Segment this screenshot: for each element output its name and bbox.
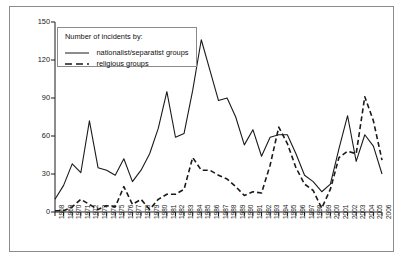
x-tick-label: 1994 (282, 205, 289, 219)
x-tick-label: 1968 (58, 205, 65, 219)
y-tick-label: 90 (20, 94, 50, 102)
x-tick-label: 1991 (256, 205, 263, 219)
x-tick-label: 1990 (247, 205, 254, 219)
y-tick-label: 60 (20, 132, 50, 140)
y-tick-label: 120 (20, 56, 50, 64)
y-axis-ticks (51, 22, 55, 212)
x-tick-label: 1983 (187, 205, 194, 219)
x-tick-label: 1970 (75, 205, 82, 219)
series-line-religious (55, 97, 382, 211)
x-tick-label: 2004 (368, 205, 375, 219)
dashed-line-icon (65, 60, 89, 68)
x-tick-label: 1992 (265, 205, 272, 219)
y-tick-label: 30 (20, 170, 50, 178)
y-tick-label: 150 (20, 18, 50, 26)
x-tick-label: 2003 (359, 205, 366, 219)
chart-legend: Number of incidents by: nationalist/sepa… (57, 27, 197, 67)
legend-entry-nationalist-separatist: nationalist/separatist groups (65, 43, 188, 53)
x-tick-label: 2005 (376, 205, 383, 219)
x-tick-label: 1979 (153, 205, 160, 219)
x-tick-label: 1977 (135, 205, 142, 219)
x-tick-label: 1971 (84, 205, 91, 219)
x-tick-label: 1996 (299, 205, 306, 219)
x-tick-label: 1995 (290, 205, 297, 219)
x-tick-label: 1973 (101, 205, 108, 219)
x-tick-label: 1998 (316, 205, 323, 219)
x-tick-label: 1988 (230, 205, 237, 219)
y-tick-label: 0 (20, 208, 50, 216)
legend-label-religious: religious groups (96, 59, 148, 68)
x-tick-label: 1993 (273, 205, 280, 219)
legend-title: Number of incidents by: (65, 32, 143, 41)
x-tick-label: 1982 (178, 205, 185, 219)
x-tick-label: 1987 (222, 205, 229, 219)
x-tick-label: 1978 (144, 205, 151, 219)
x-tick-label: 1974 (110, 205, 117, 219)
x-tick-label: 2000 (333, 205, 340, 219)
legend-entry-religious: religious groups (65, 54, 149, 64)
x-tick-label: 1997 (308, 205, 315, 219)
x-tick-label: 1981 (170, 205, 177, 219)
x-tick-label: 1989 (239, 205, 246, 219)
x-tick-label: 1999 (325, 205, 332, 219)
x-tick-label: 1975 (118, 205, 125, 219)
x-tick-label: 1980 (161, 205, 168, 219)
x-tick-label: 1972 (92, 205, 99, 219)
x-tick-label: 1985 (204, 205, 211, 219)
x-tick-label: 2006 (385, 205, 392, 219)
x-tick-label: 1984 (196, 205, 203, 219)
x-tick-label: 1976 (127, 205, 134, 219)
x-tick-label: 1986 (213, 205, 220, 219)
x-tick-label: 1969 (67, 205, 74, 219)
x-tick-label: 2001 (342, 205, 349, 219)
x-tick-label: 2002 (351, 205, 358, 219)
